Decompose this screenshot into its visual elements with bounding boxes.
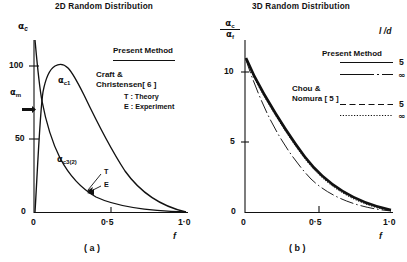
panel-a-curve-label-alpha-c32: αc3(2): [57, 155, 77, 165]
panel-a-curve-alpha-c32: [35, 40, 186, 212]
panel-b-caption: ( b ): [289, 243, 306, 253]
panel-a-legend-present-method: Present Method: [113, 46, 173, 55]
panel-a: 2D Random Distribution: [0, 0, 204, 262]
panel-a-curve-label-alpha-c1: αc1: [58, 76, 70, 86]
panel-a-annotation-arrow-t: [88, 174, 101, 190]
panel-a-xtick-label-0: 0: [31, 218, 36, 227]
figure-container: 2D Random Distribution: [0, 0, 407, 262]
panel-b-curve-chou-5: [246, 58, 391, 210]
panel-b-legend-value-chou-5: 5: [399, 99, 404, 109]
panel-a-xtick-label-05: 0·5: [101, 218, 113, 227]
panel-b-y-axis-numerator: αc: [225, 18, 234, 28]
panel-a-annotation-t: T: [104, 168, 108, 175]
panel-b-legend-reference-1: Chou &: [292, 84, 320, 93]
panel-b-x-axis-label: f: [379, 232, 382, 241]
panel-a-ytick-label-0: 0: [21, 207, 26, 216]
panel-b-legend-value-present-inf: ∞: [398, 70, 405, 80]
panel-a-legend-reference-2: Christensen[ 6 ]: [96, 80, 156, 89]
panel-b-xtick-label-05: 0·5: [309, 218, 321, 227]
panel-a-caption: ( a ): [84, 243, 100, 253]
panel-b-xtick-label-10: 1·0: [383, 218, 395, 227]
panel-a-x-axis-label: f: [173, 232, 176, 241]
panel-b-legend-value-chou-inf: ∞: [398, 111, 405, 121]
panel-a-xtick-label-10: 1·0: [178, 218, 190, 227]
panel-a-curve-label-alpha-m: αm: [10, 88, 21, 98]
panel-b-ytick-label-0: 0: [231, 207, 236, 216]
panel-b-legend-reference-2: Nomura [ 5 ]: [292, 94, 339, 103]
panel-b-curve-present-5: [246, 58, 391, 210]
panel-b-y-axis-denominator: αf: [226, 29, 234, 39]
panel-b: 3D Random Distribution: [203, 0, 407, 262]
panel-b-legend-ld-header: l /d: [379, 26, 391, 36]
panel-a-y-axis-label: αc: [18, 22, 28, 33]
panel-a-ytick-label-100: 100: [9, 61, 23, 70]
panel-b-curve-present-inf: [246, 60, 391, 211]
panel-a-annotation-e: E: [104, 181, 109, 188]
panel-b-xtick-label-0: 0: [241, 218, 246, 227]
panel-b-ytick-label-5: 5: [230, 137, 235, 146]
panel-b-curve-chou-inf: [246, 59, 391, 211]
panel-a-legend-reference-1: Craft &: [96, 70, 123, 79]
panel-b-legend-value-present-5: 5: [399, 57, 404, 67]
panel-b-ytick-label-10: 10: [224, 67, 234, 76]
panel-a-legend-note-experiment: E : Experiment: [124, 103, 174, 111]
panel-b-legend-present-method: Present Method: [322, 49, 382, 58]
panel-b-y-axis-label: αc αf: [220, 19, 240, 41]
panel-a-legend-note-theory: T : Theory: [124, 93, 159, 101]
panel-a-ytick-label-50: 50: [15, 134, 25, 143]
